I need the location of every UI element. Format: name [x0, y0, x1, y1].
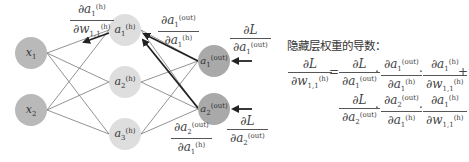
equation-title: 隐藏层权重的导数： — [287, 37, 386, 53]
eq-dot: · — [375, 65, 379, 79]
eq-term2-f1: ∂L ∂a2(out) — [339, 94, 380, 126]
node-label-a3h: a3(h) — [114, 127, 135, 142]
eq-plus: + — [458, 65, 468, 79]
eq-dot: · — [375, 101, 379, 115]
eq-term1-f1: ∂L ∂a1(out) — [339, 58, 380, 90]
eq-term1-f2: ∂a1(out) ∂a1(h) — [381, 58, 422, 93]
node-label-x2: x2 — [26, 103, 37, 118]
node-label-a1out: a1(out) — [200, 54, 227, 69]
eq-term2-f2: ∂a2(out) ∂a1(h) — [381, 94, 422, 129]
node-label-x1: x1 — [26, 46, 37, 61]
label-da1out-da1h: ∂a1(out) ∂a1(h) — [158, 14, 199, 49]
label-da2out-da1h: ∂a2(out) ∂a1(h) — [171, 121, 212, 156]
label-dL-da2out: ∂L ∂a2(out) — [227, 115, 268, 147]
node-label-a2h: a2(h) — [114, 75, 135, 90]
label-dL-da1out: ∂L ∂a1(out) — [230, 24, 271, 56]
eq-term2-f3: ∂a1(h) ∂w1,1(h) — [423, 94, 467, 129]
eq-lhs: ∂L ∂w1,1(h) — [288, 58, 332, 90]
node-label-a2out: a2(out) — [200, 102, 227, 117]
label-da1h-dw11: ∂a1(h) ∂w1,1(h) — [70, 3, 114, 38]
eq-equals: = — [329, 65, 339, 79]
node-label-a1h: a1(h) — [114, 23, 135, 38]
